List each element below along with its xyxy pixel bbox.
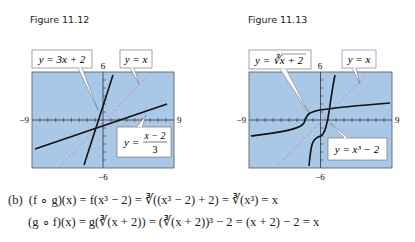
equation-line-1: (b) (f ∘ g)(x) = f(x³ − 2) = ∛((x³ − 2) …: [8, 192, 278, 208]
svg-text:y =: y =: [123, 136, 139, 148]
composition-f-of-g: (f ∘ g)(x) = f(x³ − 2) = ∛((x³ − 2) + 2)…: [29, 193, 278, 207]
svg-text:6: 6: [318, 61, 323, 71]
svg-text:−6: −6: [315, 172, 325, 182]
plot-1: y = 3x + 2 y = x y = x − 2 3 6 −6 −9 9: [19, 50, 182, 182]
svg-text:9: 9: [177, 115, 182, 125]
svg-text:y = x: y = x: [347, 53, 371, 65]
svg-text:y = x³ − 2: y = x³ − 2: [334, 143, 380, 155]
part-label: (b): [8, 193, 23, 207]
svg-text:9: 9: [395, 115, 400, 125]
svg-text:y = ∛x + 2: y = ∛x + 2: [254, 53, 304, 66]
svg-text:−9: −9: [236, 115, 246, 125]
svg-text:−6: −6: [98, 172, 108, 182]
svg-text:6: 6: [101, 61, 106, 71]
svg-text:3: 3: [153, 144, 158, 155]
composition-g-of-f: (g ∘ f)(x) = g(∛(x + 2)) = (∛(x + 2))³ −…: [28, 215, 319, 229]
equation-line-2: (g ∘ f)(x) = g(∛(x + 2)) = (∛(x + 2))³ −…: [28, 214, 319, 230]
svg-text:y = 3x + 2: y = 3x + 2: [38, 53, 86, 65]
svg-text:−9: −9: [19, 115, 29, 125]
svg-text:x − 2: x − 2: [143, 130, 165, 141]
plot-2: y = ∛x + 2 y = x y = x³ − 2 6 −6 −9 9: [236, 50, 400, 182]
svg-text:y = x: y = x: [124, 53, 148, 65]
